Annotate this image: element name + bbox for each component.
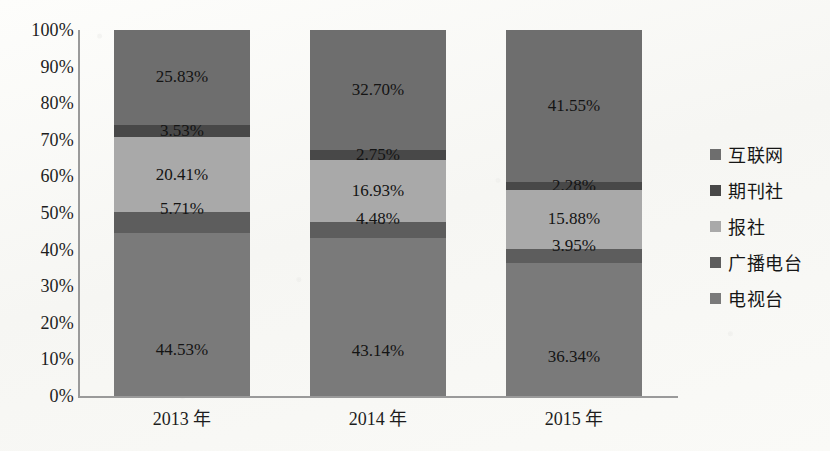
y-axis-tick-label: 100% xyxy=(31,20,74,41)
legend-swatch-icon xyxy=(710,293,721,304)
legend-item-label: 互联网 xyxy=(728,141,784,167)
bar-stack: 32.70%2.75%16.93%4.48%43.14% xyxy=(310,30,446,396)
legend-swatch-icon xyxy=(710,221,721,232)
y-axis: 0%10%20%30%40%50%60%70%80%90%100% xyxy=(14,24,74,400)
legend-swatch-icon xyxy=(710,257,721,268)
x-axis-line xyxy=(78,396,678,398)
legend-item-label: 电视台 xyxy=(728,285,784,311)
y-axis-tick-label: 70% xyxy=(40,129,74,150)
chart-legend: 互联网期刊社报社广播电台电视台 xyxy=(710,136,802,316)
legend-item-label: 期刊社 xyxy=(728,177,784,203)
bar-segment[interactable]: 36.34% xyxy=(506,263,642,396)
x-axis-tick-label: 2014 年 xyxy=(298,404,458,430)
bar-segment-value-label: 20.41% xyxy=(114,165,250,185)
y-axis-tick-label: 0% xyxy=(50,386,74,407)
bar-segment[interactable]: 41.55% xyxy=(506,30,642,182)
bar-segment[interactable]: 43.14% xyxy=(310,238,446,396)
x-axis-tick-label: 2015 年 xyxy=(494,404,654,430)
legend-swatch-icon xyxy=(710,185,721,196)
bar-segment-value-label: 32.70% xyxy=(310,80,446,100)
bar-stack: 41.55%2.28%15.88%3.95%36.34% xyxy=(506,30,642,396)
bar-segment[interactable]: 3.53% xyxy=(114,125,250,138)
y-axis-tick-label: 80% xyxy=(40,93,74,114)
y-axis-tick-label: 90% xyxy=(40,56,74,77)
bar-segment[interactable]: 44.53% xyxy=(114,233,250,396)
legend-item-label: 报社 xyxy=(728,213,765,239)
y-axis-tick-label: 30% xyxy=(40,276,74,297)
bar-segment-value-label: 15.88% xyxy=(506,209,642,229)
bar-group[interactable]: 41.55%2.28%15.88%3.95%36.34% xyxy=(506,30,642,396)
legend-item[interactable]: 互联网 xyxy=(710,136,802,172)
legend-item-label: 广播电台 xyxy=(728,249,802,275)
bar-segment-value-label: 3.95% xyxy=(506,236,642,256)
legend-item[interactable]: 期刊社 xyxy=(710,172,802,208)
bar-segment[interactable]: 25.83% xyxy=(114,30,250,125)
x-axis-tick-label: 2013 年 xyxy=(102,404,262,430)
legend-swatch-icon xyxy=(710,149,721,160)
bar-segment-value-label: 16.93% xyxy=(310,181,446,201)
bar-group[interactable]: 25.83%3.53%20.41%5.71%44.53% xyxy=(114,30,250,396)
y-axis-tick-label: 50% xyxy=(40,203,74,224)
y-axis-tick-label: 20% xyxy=(40,312,74,333)
bar-segment[interactable]: 5.71% xyxy=(114,212,250,233)
bar-segment[interactable]: 4.48% xyxy=(310,222,446,238)
y-axis-tick-label: 10% xyxy=(40,349,74,370)
bar-segment-value-label: 4.48% xyxy=(310,209,446,229)
bar-segment-value-label: 44.53% xyxy=(114,340,250,360)
legend-item[interactable]: 电视台 xyxy=(710,280,802,316)
legend-item[interactable]: 广播电台 xyxy=(710,244,802,280)
y-axis-tick-label: 40% xyxy=(40,239,74,260)
bar-segment-value-label: 25.83% xyxy=(114,67,250,87)
bar-segment[interactable]: 2.28% xyxy=(506,182,642,190)
legend-item[interactable]: 报社 xyxy=(710,208,802,244)
bar-group[interactable]: 32.70%2.75%16.93%4.48%43.14% xyxy=(310,30,446,396)
y-axis-tick-label: 60% xyxy=(40,166,74,187)
stacked-bar-chart: 0%10%20%30%40%50%60%70%80%90%100% 25.83%… xyxy=(0,0,830,451)
bar-segment[interactable]: 32.70% xyxy=(310,30,446,150)
bar-segment-value-label: 43.14% xyxy=(310,341,446,361)
bar-segment[interactable]: 3.95% xyxy=(506,249,642,263)
plot-area: 25.83%3.53%20.41%5.71%44.53%32.70%2.75%1… xyxy=(78,30,678,396)
bar-segment-value-label: 5.71% xyxy=(114,199,250,219)
bar-segment-value-label: 36.34% xyxy=(506,347,642,367)
bar-segment-value-label: 41.55% xyxy=(506,96,642,116)
bar-stack: 25.83%3.53%20.41%5.71%44.53% xyxy=(114,30,250,396)
bar-segment[interactable]: 2.75% xyxy=(310,150,446,160)
